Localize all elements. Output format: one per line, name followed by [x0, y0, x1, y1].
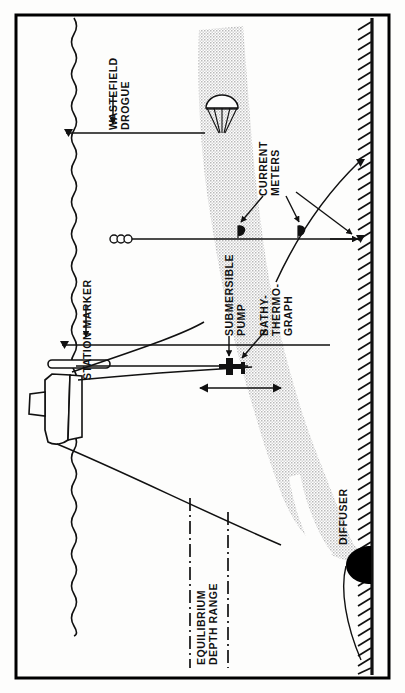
- figure-panel: WASTEFIELD DROGUE STATION MARKER CURRENT…: [0, 0, 405, 693]
- float-string: [110, 235, 132, 243]
- diagram-canvas: [0, 0, 405, 693]
